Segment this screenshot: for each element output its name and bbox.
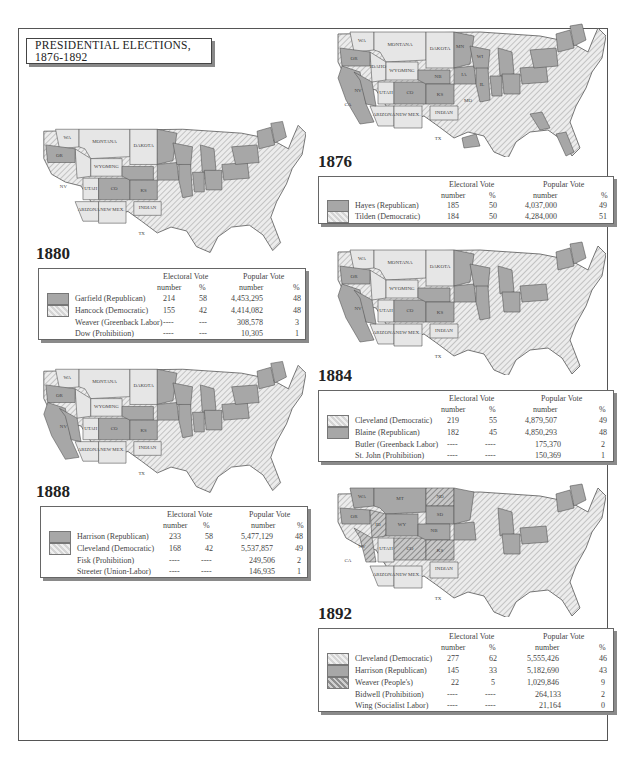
- svg-text:KS: KS: [437, 310, 444, 315]
- svg-text:MO: MO: [464, 98, 472, 103]
- svg-text:ND: ND: [436, 494, 444, 499]
- header-electoral: Electoral Vote: [449, 632, 494, 641]
- svg-text:WA: WA: [64, 135, 72, 140]
- svg-text:CO: CO: [407, 90, 414, 95]
- table-row: Weaver (People's) 22 5 1,029,846 9: [319, 677, 613, 689]
- svg-text:IDAHO: IDAHO: [370, 64, 386, 69]
- header-ev-pct: %: [203, 521, 210, 530]
- svg-text:ID: ID: [375, 522, 381, 527]
- svg-text:TX: TX: [435, 354, 442, 359]
- header-ev-pct: %: [199, 283, 206, 292]
- svg-text:MT: MT: [396, 496, 404, 501]
- republican-swatch: [47, 293, 69, 305]
- header-ev-number: number: [163, 521, 187, 530]
- republican-swatch: [49, 531, 71, 543]
- table-row: Hancock (Democratic) 155 42 4,414,082 48: [39, 305, 305, 317]
- svg-text:WYOMING: WYOMING: [389, 68, 415, 73]
- svg-text:TX: TX: [138, 471, 145, 476]
- svg-text:INDIAN: INDIAN: [139, 445, 157, 450]
- header-ev-pct: %: [489, 643, 496, 652]
- svg-text:UTAH: UTAH: [84, 426, 98, 431]
- svg-text:TX: TX: [435, 136, 442, 141]
- table-row: Streeter (Union-Labor) ---- ---- 146,935…: [41, 566, 307, 578]
- results-table-1888: Electoral Vote Popular Vote number % num…: [40, 506, 308, 578]
- year-label-1888: 1888: [36, 482, 70, 502]
- svg-text:WI: WI: [477, 54, 484, 59]
- svg-text:NEW MEX.: NEW MEX.: [100, 447, 124, 452]
- year-label-1884: 1884: [318, 366, 352, 386]
- svg-text:WYOMING: WYOMING: [94, 164, 119, 169]
- header-electoral: Electoral Vote: [449, 394, 494, 403]
- democratic-swatch: [327, 211, 349, 223]
- header-pv-number: number: [533, 191, 557, 200]
- svg-text:KS: KS: [437, 92, 444, 97]
- header-ev-pct: %: [489, 191, 496, 200]
- democratic-swatch: [49, 543, 71, 555]
- svg-text:CO: CO: [111, 186, 118, 191]
- svg-text:INDIAN: INDIAN: [139, 205, 157, 210]
- svg-text:KS: KS: [140, 188, 147, 193]
- svg-text:OR: OR: [351, 514, 359, 519]
- table-row: Garfield (Republican) 214 58 4,453,295 4…: [39, 293, 305, 305]
- header-pv-pct: %: [601, 191, 608, 200]
- header-electoral: Electoral Vote: [449, 180, 494, 189]
- svg-text:TX: TX: [435, 596, 442, 601]
- svg-text:WYOMING: WYOMING: [389, 286, 415, 291]
- header-ev-pct: %: [489, 405, 496, 414]
- svg-text:DAKOTA: DAKOTA: [430, 264, 451, 269]
- header-ev-number: number: [441, 405, 465, 414]
- svg-text:NEW MEX.: NEW MEX.: [100, 207, 124, 212]
- table-row: Wing (Socialist Labor) ---- ---- 21,164 …: [319, 700, 613, 712]
- svg-text:NEW MEX.: NEW MEX.: [396, 112, 421, 117]
- header-pv-pct: %: [297, 521, 304, 530]
- svg-text:ARIZONA: ARIZONA: [78, 207, 100, 212]
- svg-text:IL: IL: [480, 82, 485, 87]
- peoples-swatch: [327, 677, 349, 689]
- header-popular: Popular Vote: [543, 180, 584, 189]
- table-row: Tilden (Democratic) 184 50 4,284,000 51: [319, 211, 613, 223]
- democratic-swatch: [47, 305, 69, 317]
- svg-text:NV: NV: [358, 544, 366, 549]
- svg-text:OR: OR: [56, 393, 64, 398]
- svg-text:WA: WA: [358, 38, 366, 43]
- year-label-1876: 1876: [318, 152, 352, 172]
- map-1888: WAMONTANADAKOTA ORWYOMINGUTAH COKSNV ARI…: [36, 358, 306, 493]
- svg-text:CO: CO: [407, 546, 414, 551]
- svg-text:OR: OR: [351, 274, 359, 279]
- svg-text:DAKOTA: DAKOTA: [430, 46, 451, 51]
- header-pv-number: number: [533, 405, 557, 414]
- table-row: Dow (Prohibition) ---- --- 10,305 1: [39, 328, 305, 340]
- svg-text:KS: KS: [140, 428, 147, 433]
- svg-text:MONTANA: MONTANA: [92, 139, 117, 144]
- svg-text:UTAH: UTAH: [84, 186, 98, 191]
- svg-text:UTAH: UTAH: [379, 308, 393, 313]
- svg-text:WA: WA: [358, 256, 366, 261]
- svg-text:OR: OR: [56, 153, 64, 158]
- svg-text:INDIAN: INDIAN: [435, 110, 453, 115]
- svg-text:WY: WY: [398, 522, 407, 527]
- header-ev-number: number: [157, 283, 181, 292]
- header-ev-number: number: [441, 643, 465, 652]
- table-row: Blaine (Republican) 182 45 4,850,293 48: [319, 427, 613, 439]
- svg-text:DAKOTA: DAKOTA: [134, 383, 155, 388]
- democratic-swatch: [327, 415, 349, 427]
- header-electoral: Electoral Vote: [163, 272, 208, 281]
- svg-text:WYOMING: WYOMING: [94, 404, 119, 409]
- page-title: PRESIDENTIAL ELECTIONS, 1876-1892: [26, 38, 212, 64]
- svg-text:INDIAN: INDIAN: [435, 328, 453, 333]
- svg-text:INDIAN: INDIAN: [435, 566, 453, 571]
- svg-text:NB: NB: [431, 528, 439, 533]
- page-title-text: PRESIDENTIAL ELECTIONS, 1876-1892: [35, 39, 211, 63]
- svg-text:CO: CO: [407, 308, 414, 313]
- header-ev-number: number: [441, 191, 465, 200]
- svg-text:CA: CA: [345, 102, 352, 107]
- republican-swatch: [327, 427, 349, 439]
- header-pv-pct: %: [293, 283, 300, 292]
- year-label-1880: 1880: [36, 244, 70, 264]
- header-popular: Popular Vote: [249, 510, 290, 519]
- table-row: Harrison (Republican) 233 58 5,477,129 4…: [41, 531, 307, 543]
- svg-text:MN: MN: [456, 44, 464, 49]
- svg-text:NEW MEX.: NEW MEX.: [396, 330, 421, 335]
- map-1880: WAMONTANADAKOTA ORWYOMINGUTAH COKSNV ARI…: [36, 118, 306, 253]
- header-pv-number: number: [239, 283, 263, 292]
